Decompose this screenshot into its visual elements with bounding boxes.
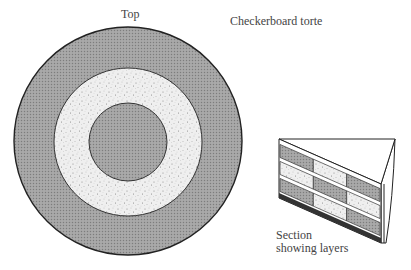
diagram-title: Checkerboard torte [230, 15, 322, 28]
top-label: Top [121, 8, 140, 21]
section-label-line2: showing layers [276, 242, 348, 255]
inner-dark-circle [89, 103, 167, 181]
top-view [14, 27, 242, 255]
torte-diagram [0, 0, 411, 270]
